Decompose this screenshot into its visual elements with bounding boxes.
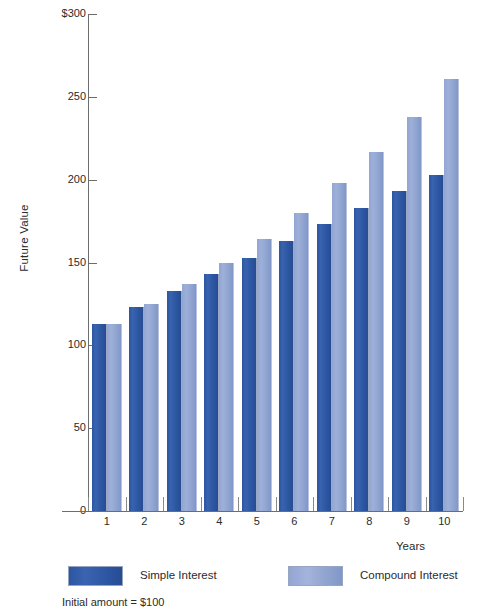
x-axis-tick-label: 4 — [204, 515, 234, 527]
x-axis-tick-label: 9 — [392, 515, 422, 527]
bar-compound-year-7 — [332, 183, 347, 511]
x-axis-tick — [88, 497, 89, 511]
y-axis-tick-label: 50 — [42, 421, 86, 433]
x-axis-tick-label: 1 — [92, 515, 122, 527]
x-axis-tick — [313, 497, 314, 511]
chart-legend: Simple InterestCompound Interest — [0, 566, 478, 592]
bar-simple-year-9 — [392, 191, 407, 511]
x-axis-tick — [351, 497, 352, 511]
bar-simple-year-6 — [279, 241, 294, 511]
x-axis-tick-label: 3 — [167, 515, 197, 527]
bar-compound-year-10 — [444, 79, 459, 511]
legend-swatch-simple — [68, 566, 123, 586]
x-axis-tick — [463, 497, 464, 511]
bar-compound-year-5 — [257, 239, 272, 511]
y-axis-tick-label: $300 — [42, 7, 86, 19]
y-axis-tick-label: 200 — [42, 173, 86, 185]
bar-simple-year-8 — [354, 208, 369, 511]
initial-amount-note: Initial amount = $100 — [62, 596, 164, 608]
bar-simple-year-10 — [429, 175, 444, 511]
y-axis-tick-label: 150 — [42, 256, 86, 268]
legend-label-compound: Compound Interest — [360, 569, 458, 581]
bar-simple-year-7 — [317, 224, 332, 511]
bar-simple-year-4 — [204, 274, 219, 511]
y-axis-tick-label: 250 — [42, 90, 86, 102]
x-axis-tick-label: 5 — [242, 515, 272, 527]
x-axis-tick-label: 2 — [129, 515, 159, 527]
y-axis-tick-label: 100 — [42, 338, 86, 350]
bar-compound-year-2 — [144, 304, 159, 511]
x-axis-tick — [201, 497, 202, 511]
x-axis-tick-label: 7 — [317, 515, 347, 527]
bar-simple-year-5 — [242, 258, 257, 511]
bar-compound-year-6 — [294, 213, 309, 511]
legend-label-simple: Simple Interest — [140, 569, 217, 581]
x-axis-tick-label: 6 — [279, 515, 309, 527]
x-axis-tick-label: 10 — [429, 515, 459, 527]
plot-area — [88, 14, 463, 511]
bar-compound-year-4 — [219, 263, 234, 512]
bar-compound-year-8 — [369, 152, 384, 511]
future-value-bar-chart: Future Value $300250200150100500 1234567… — [0, 0, 478, 615]
x-axis-line — [62, 511, 463, 512]
x-axis-title: Years — [396, 540, 425, 552]
bar-simple-year-2 — [129, 307, 144, 511]
x-axis-tick — [126, 497, 127, 511]
legend-swatch-compound — [288, 566, 343, 586]
bar-compound-year-3 — [182, 284, 197, 511]
x-axis-tick — [276, 497, 277, 511]
x-axis-tick-label: 8 — [354, 515, 384, 527]
bar-simple-year-1 — [92, 324, 107, 511]
bar-compound-year-9 — [407, 117, 422, 511]
y-axis-title: Future Value — [18, 178, 30, 298]
x-axis-tick — [388, 497, 389, 511]
x-axis-tick — [163, 497, 164, 511]
x-axis-tick — [238, 497, 239, 511]
bar-simple-year-3 — [167, 291, 182, 511]
bar-compound-year-1 — [107, 324, 122, 511]
x-axis-tick — [426, 497, 427, 511]
y-axis-tick-label: 0 — [42, 504, 86, 516]
